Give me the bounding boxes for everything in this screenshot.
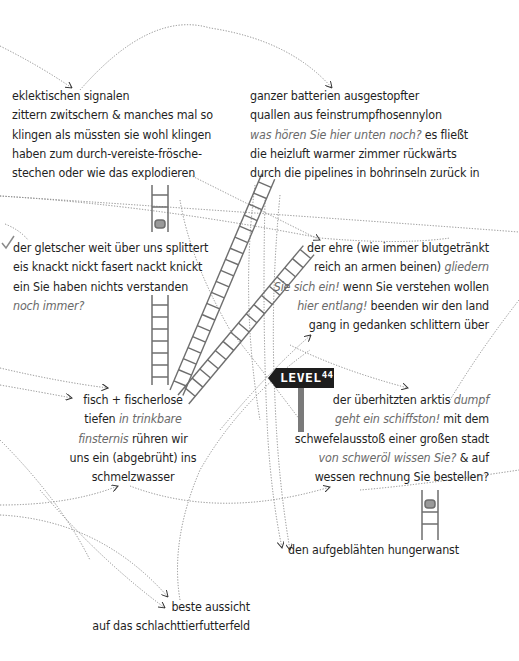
arrow-icon [0, 385, 72, 398]
text-line: wessen rechnung Sie bestellen? [295, 467, 489, 486]
italic-text: finsternis [78, 431, 128, 446]
text-line: auf das schlachttierfutterfeld [92, 616, 250, 635]
plain-text: reich an armen beinen) [314, 259, 444, 274]
plain-text: mit dem [440, 411, 489, 426]
text-line: eklektischen signalen [12, 86, 213, 105]
plain-text: rühren wir [129, 431, 188, 446]
italic-text: Sie sich ein! [274, 279, 340, 294]
stanza-ganzer-batterien: ganzer batterien ausgestopfter quallen a… [250, 86, 480, 182]
text-line: gang in gedanken schlittern über [274, 315, 489, 334]
ladder-icon [422, 490, 438, 540]
plain-text: wenn Sie verstehen wollen [339, 279, 489, 294]
text-line: von schweröl wissen Sie? & auf [295, 448, 489, 467]
signpost-icon: LEVEL44 [268, 368, 334, 388]
stanza-hungerwanst: den aufgeblähten hungerwanst [288, 540, 459, 559]
text-line: klingen als müssten sie wohl klingen [12, 125, 213, 144]
level-sign: LEVEL44 [276, 368, 334, 388]
ladder-icon [152, 185, 168, 232]
plain-text: tiefen [84, 411, 119, 426]
italic-text: von schweröl wissen Sie? [319, 450, 457, 465]
text-line: tiefen in trinkbare [68, 409, 198, 428]
level-word: LEVEL [280, 370, 322, 385]
text-line: die heizluft warmer zimmer rückwärts [250, 144, 480, 163]
text-line: durch die pipelines in bohrinseln zurück… [250, 163, 480, 182]
plain-text: es fließt [421, 127, 468, 142]
arrow-icon [190, 175, 320, 240]
arrow-icon [130, 486, 330, 503]
italic-text: dumpf [454, 392, 489, 407]
text-line: quallen aus feinstrumpfhosennylon [250, 105, 480, 124]
signpost-pole [298, 388, 304, 432]
text-line: eis knackt nickt fasert nackt knickt [13, 257, 208, 276]
text-line: schmelzwasser [68, 467, 198, 486]
arrow-icon [0, 368, 108, 388]
italic-text: hier entlang! [297, 298, 367, 313]
italic-text: noch immer? [13, 296, 208, 315]
text-line: beste aussicht [92, 597, 250, 616]
plain-text: beenden wir den land [367, 298, 489, 313]
sign-arrow-tip [268, 368, 276, 388]
level-number: 44 [322, 370, 334, 380]
text-line: der ehre (wie immer blutgetränkt [274, 238, 489, 257]
italic-text: in trinkbare [119, 411, 182, 426]
text-line: fisch + fischerlose [68, 390, 198, 409]
text-line: ganzer batterien ausgestopfter [250, 86, 480, 105]
arrow-icon [80, 25, 332, 90]
stanza-der-ehre: der ehre (wie immer blutgetränkt reich a… [274, 238, 489, 334]
arrow-icon [40, 490, 165, 608]
text-line: ein Sie haben nichts verstanden [13, 277, 208, 296]
plain-text: & auf [456, 450, 489, 465]
arrow-icon [0, 515, 168, 597]
text-line: uns ein (abgebrüht) ins [68, 448, 198, 467]
stanza-eklektischen: eklektischen signalen zittern zwitschern… [12, 86, 213, 182]
text-line: schwefelausstoß einer großen stadt [295, 429, 489, 448]
stanza-ueberhitzten-arktis: der überhitzten arktis dumpf geht ein sc… [295, 390, 489, 486]
stanza-gletscher: der gletscher weit über uns splittert ei… [13, 238, 208, 315]
text-line: der überhitzten arktis dumpf [295, 390, 489, 409]
text-line: was hören Sie hier unten noch? es fließt [250, 125, 480, 144]
text-line: hier entlang! beenden wir den land [274, 296, 489, 315]
stanza-beste-aussicht: beste aussicht auf das schlachttierfutte… [92, 597, 250, 636]
text-line: der gletscher weit über uns splittert [13, 238, 208, 257]
text-line: geht ein schiffston! mit dem [295, 409, 489, 428]
text-line: stechen oder wie das explodieren [12, 163, 213, 182]
plain-text: der überhitzten arktis [333, 392, 454, 407]
italic-text: geht ein schiffston! [335, 411, 440, 426]
text-line: finsternis rühren wir [68, 429, 198, 448]
stanza-fisch: fisch + fischerlose tiefen in trinkbare … [68, 390, 198, 486]
text-line: Sie sich ein! wenn Sie verstehen wollen [274, 277, 489, 296]
arrow-icon [0, 196, 450, 242]
text-line: haben zum durch-vereiste-frösche- [12, 144, 213, 163]
text-line: reich an armen beinen) gliedern [274, 257, 489, 276]
arrow-icon [0, 486, 118, 505]
text-line: zittern zwitschern & manches mal so [12, 105, 213, 124]
italic-text: gliedern [444, 259, 489, 274]
italic-text: was hören Sie hier unten noch? [250, 127, 421, 142]
arrow-icon [0, 46, 72, 88]
text-line: den aufgeblähten hungerwanst [288, 540, 459, 559]
